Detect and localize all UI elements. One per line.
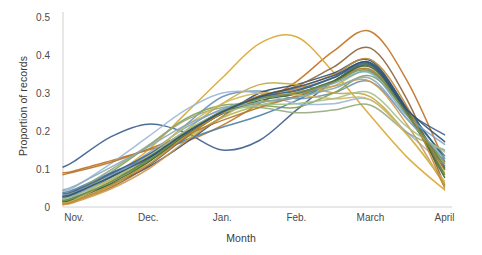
- series-lines: [63, 30, 445, 204]
- chart-container: Proportion of records Month 00.10.20.30.…: [0, 0, 482, 255]
- plot-area: [0, 0, 482, 255]
